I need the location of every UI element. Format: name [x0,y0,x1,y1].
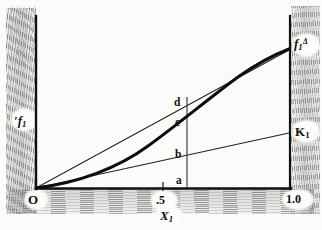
raoult-ideal-line [36,50,289,188]
point-label-d: d [174,96,180,108]
x-axis-label: X1 [160,208,173,224]
henry-constant-label: K1 [295,124,310,140]
origin-label: O [28,192,38,208]
figure-canvas: ′f1 f1Δ K1 d c b a O .5 1.0 X1 [0,0,322,230]
point-label-a: a [176,174,182,186]
x-tick-label-one: 1.0 [286,192,301,207]
pure-fugacity-label: f1Δ [294,36,308,52]
y-axis-label: ′f1 [14,113,26,129]
point-label-c: c [175,116,180,128]
x-tick-label-half: .5 [156,193,165,208]
point-label-b: b [175,148,181,160]
